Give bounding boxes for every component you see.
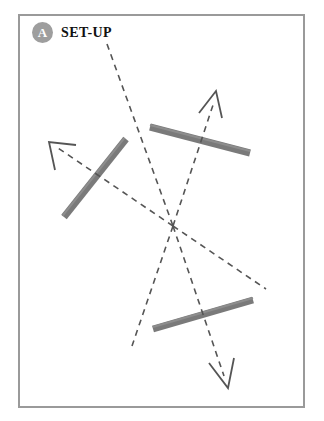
panel-title: SET-UP [61, 25, 112, 41]
panel-label: A SET-UP [32, 22, 112, 43]
figure-panel [18, 14, 305, 408]
panel-label-badge: A [32, 22, 53, 43]
